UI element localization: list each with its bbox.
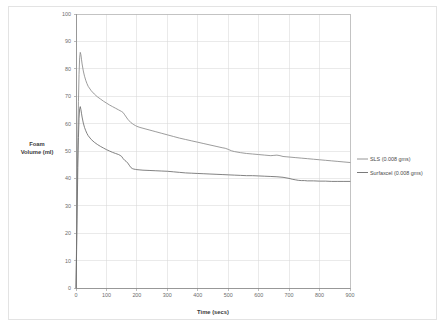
x-axis-tick-labels: 0100200300400500600700800900	[75, 292, 355, 298]
x-tick-label: 800	[315, 292, 324, 298]
y-tick-label: 70	[65, 93, 71, 99]
x-tick-label: 0	[75, 292, 78, 298]
x-tick-label: 200	[132, 292, 141, 298]
y-axis-title-line2: Volume (ml)	[21, 149, 54, 155]
x-tick-label: 300	[163, 292, 172, 298]
y-tick-label: 50	[65, 148, 71, 154]
y-axis-title-line1: Foam	[29, 141, 44, 147]
x-tick-label: 500	[224, 292, 233, 298]
y-axis-tick-labels: 0102030405060708090100	[62, 11, 71, 291]
y-tick-label: 60	[65, 121, 71, 127]
y-tick-label: 90	[65, 38, 71, 44]
y-tick-label: 40	[65, 175, 71, 181]
y-tick-label: 20	[65, 230, 71, 236]
x-tick-label: 100	[102, 292, 111, 298]
x-tick-label: 900	[346, 292, 355, 298]
y-tick-label: 100	[62, 11, 71, 17]
x-tick-label: 400	[193, 292, 202, 298]
y-tick-label: 30	[65, 203, 71, 209]
data-series	[76, 52, 350, 288]
chart-figure: 0102030405060708090100 01002003004005006…	[0, 0, 445, 330]
y-tick-label: 10	[65, 258, 71, 264]
series-line	[76, 52, 350, 288]
y-tick-label: 80	[65, 66, 71, 72]
chart-legend: SLS (0.008 gms)Surfaxcel (0.008 gms)	[357, 156, 423, 176]
legend-label: Surfaxcel (0.008 gms)	[370, 170, 423, 176]
line-chart: 0102030405060708090100 01002003004005006…	[0, 0, 445, 330]
x-tick-label: 700	[285, 292, 294, 298]
x-axis-title: Time (secs)	[197, 309, 229, 315]
x-tick-label: 600	[254, 292, 263, 298]
legend-label: SLS (0.008 gms)	[370, 156, 411, 162]
axis-tickmarks	[74, 14, 351, 291]
gridlines	[76, 14, 350, 288]
y-tick-label: 0	[68, 285, 71, 291]
